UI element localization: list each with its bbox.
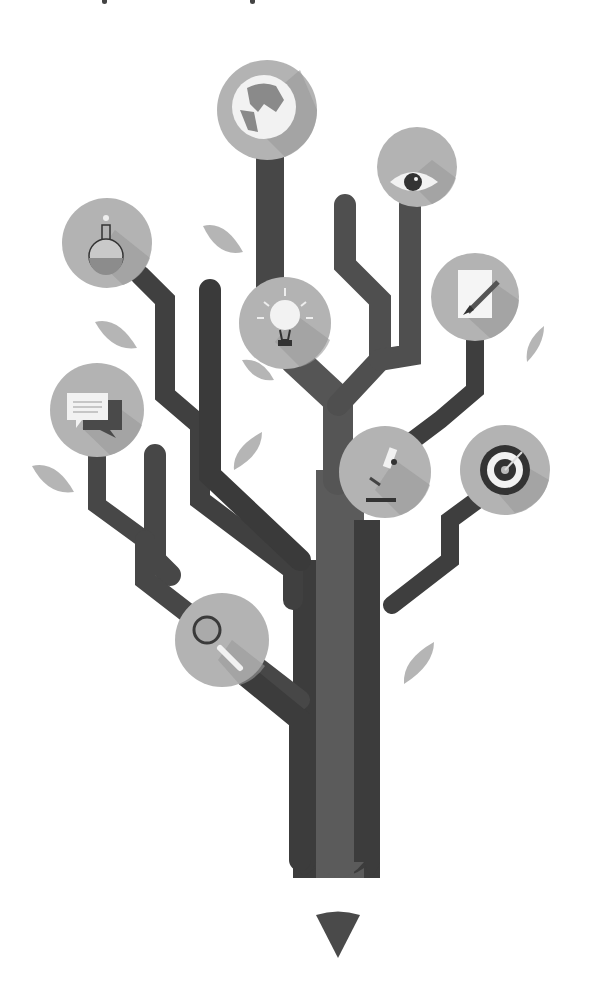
lightbulb-icon <box>239 277 331 369</box>
flask-icon <box>62 198 152 288</box>
eye-icon <box>377 127 457 207</box>
globe-icon <box>217 60 317 160</box>
microscope-icon <box>339 426 431 518</box>
leaf-icon <box>32 465 74 492</box>
document-pen-icon <box>431 253 519 341</box>
leaf-icon <box>203 225 243 253</box>
branches <box>97 150 480 860</box>
leaf-icon <box>527 326 544 362</box>
target-icon <box>460 425 550 515</box>
leaf-icon <box>404 642 434 684</box>
speech-bubbles-icon <box>50 363 144 457</box>
magnifier-icon <box>175 593 269 687</box>
leaf-icon <box>234 432 262 470</box>
leaf-icon <box>95 321 137 348</box>
pencil-tip <box>316 912 360 959</box>
pencil-tree-illustration <box>0 0 599 997</box>
